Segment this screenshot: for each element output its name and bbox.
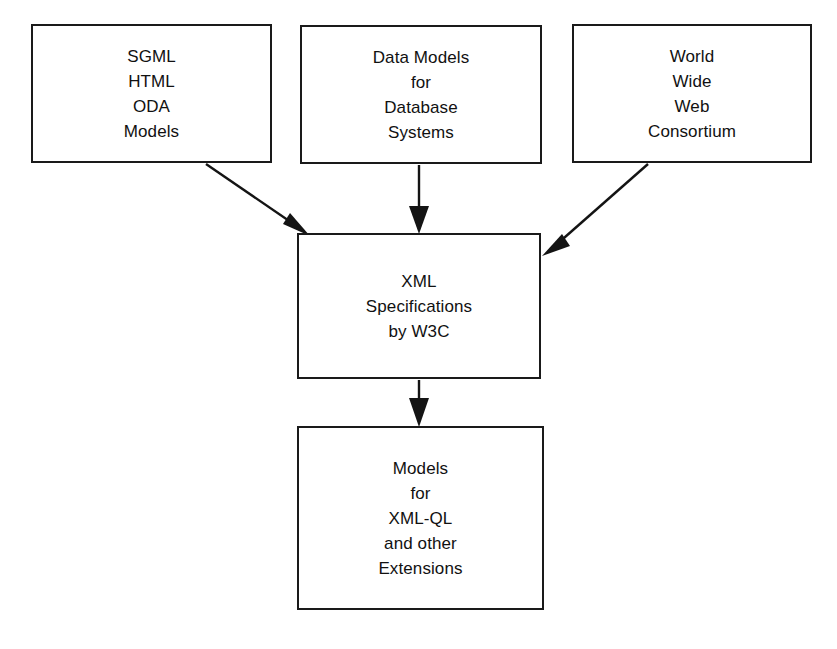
node-label: XML Specifications by W3C — [366, 269, 472, 344]
node-world-wide-web-consortium[interactable]: World Wide Web Consortium — [572, 24, 812, 163]
diagram-canvas: SGML HTML ODA Models Data Models for Dat… — [0, 0, 837, 649]
edge-xmlspec-to-extensions — [409, 380, 429, 427]
node-xml-specifications-by-w3c[interactable]: XML Specifications by W3C — [297, 233, 541, 379]
node-models-for-xml-ql-and-other-extensions[interactable]: Models for XML-QL and other Extensions — [297, 426, 544, 610]
node-label: World Wide Web Consortium — [648, 44, 736, 144]
edge-w3c-to-xmlspec — [542, 164, 648, 256]
edge-sgml-to-xmlspec — [206, 164, 310, 236]
node-label: SGML HTML ODA Models — [124, 44, 179, 144]
edge-datamodels-to-xmlspec — [409, 165, 429, 234]
node-data-models-for-database-systems[interactable]: Data Models for Database Systems — [300, 25, 542, 164]
node-label: Data Models for Database Systems — [373, 45, 470, 145]
node-label: Models for XML-QL and other Extensions — [378, 456, 462, 581]
node-sgml-html-oda-models[interactable]: SGML HTML ODA Models — [31, 24, 272, 163]
